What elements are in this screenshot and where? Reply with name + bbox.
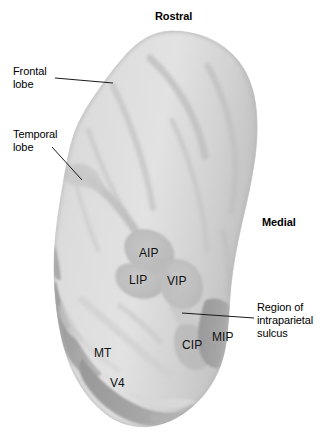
orientation-label-rostral: Rostral [155, 10, 192, 23]
callout-label-temporal-lobe: Temporal lobe [13, 128, 57, 154]
orientation-label-medial: Medial [262, 216, 296, 229]
callout-label-intraparietal-sulcus: Region of intraparietal sulcus [257, 301, 313, 340]
region-label-V4: V4 [110, 377, 125, 389]
region-label-MT: MT [94, 347, 112, 359]
region-label-VIP: VIP [167, 275, 187, 287]
region-label-MIP: MIP [212, 331, 234, 343]
region-label-CIP: CIP [182, 339, 202, 351]
brain-figure: RostralMedial Frontal lobeTemporal lobeR… [0, 0, 328, 434]
region-label-AIP: AIP [139, 247, 159, 259]
callout-label-frontal-lobe: Frontal lobe [13, 65, 47, 91]
region-label-LIP: LIP [129, 274, 147, 286]
